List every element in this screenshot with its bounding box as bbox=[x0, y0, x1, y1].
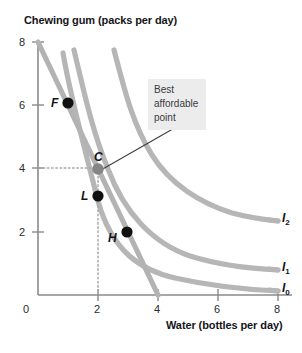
y-tick-label-6: 6 bbox=[19, 99, 25, 111]
x-axis-title: Water (bottles per day) bbox=[166, 319, 282, 331]
curve-i2 bbox=[114, 50, 278, 221]
point-h-label: H bbox=[108, 231, 117, 245]
point-f-label: F bbox=[51, 96, 58, 110]
chart-canvas: Chewing gum (packs per day) Water (bottl… bbox=[0, 0, 302, 353]
curve-label-i2: I2 bbox=[282, 211, 290, 227]
indifference-curve-plot bbox=[0, 0, 302, 353]
point-l-label: L bbox=[81, 189, 88, 203]
point-f-marker bbox=[62, 97, 73, 108]
y-tick-label-4: 4 bbox=[19, 162, 25, 174]
point-h-marker bbox=[121, 226, 132, 237]
y-tick-label-2: 2 bbox=[19, 226, 25, 238]
x-tick-label-6: 6 bbox=[214, 303, 220, 315]
guide-lines-group bbox=[39, 168, 98, 294]
callout-line-3: point bbox=[154, 111, 201, 125]
curve-label-ticks-group bbox=[269, 220, 278, 291]
x-tick-label-4: 4 bbox=[154, 303, 160, 315]
x-tick-label-0: 0 bbox=[23, 303, 29, 315]
y-axis-title: Chewing gum (packs per day) bbox=[24, 14, 177, 26]
curve-label-i0-sub: 0 bbox=[285, 288, 289, 297]
x-tick-label-2: 2 bbox=[94, 303, 100, 315]
point-c-marker bbox=[92, 163, 104, 175]
curve-i2-label-lead bbox=[269, 220, 278, 221]
curve-label-i1: I1 bbox=[282, 260, 290, 276]
curve-label-i0: I0 bbox=[282, 281, 290, 297]
curve-i1-label-lead bbox=[269, 269, 278, 270]
point-l-marker bbox=[92, 190, 103, 201]
curve-label-i1-sub: 1 bbox=[285, 267, 289, 276]
best-affordable-point-callout: Best affordable point bbox=[148, 79, 206, 130]
point-c-label: C bbox=[94, 150, 103, 164]
curve-label-i2-sub: 2 bbox=[285, 218, 289, 227]
curve-i0-label-lead bbox=[269, 290, 278, 291]
x-tick-label-8: 8 bbox=[274, 303, 280, 315]
callout-line-2: affordable bbox=[154, 97, 201, 111]
y-tick-label-8: 8 bbox=[19, 36, 25, 48]
callout-line-1: Best bbox=[154, 83, 201, 97]
